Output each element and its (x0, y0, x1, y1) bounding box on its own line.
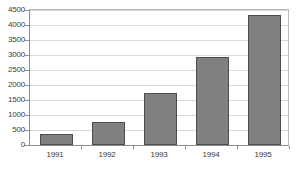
x-axis-tick-mark (289, 146, 290, 149)
gridline (30, 145, 288, 146)
gridline (30, 10, 288, 11)
bar (144, 93, 177, 145)
y-axis-ticks (0, 0, 29, 171)
x-axis-tick-label: 1995 (237, 150, 289, 159)
bar (40, 134, 73, 145)
bar (92, 122, 125, 145)
x-axis-tick-label: 1993 (133, 150, 185, 159)
x-axis-tick-label: 1994 (185, 150, 237, 159)
bar-chart-figure: 050010001500200025003000350040004500 199… (0, 0, 299, 171)
x-axis-tick-mark (81, 146, 82, 149)
x-axis-tick-label: 1992 (81, 150, 133, 159)
plot-area (29, 9, 289, 146)
x-axis-labels: 19911992199319941995 (29, 150, 289, 164)
x-axis-tick-label: 1991 (29, 150, 81, 159)
x-axis-tick-mark (133, 146, 134, 149)
bar (248, 15, 281, 146)
bar (196, 57, 229, 146)
x-axis-tick-mark (185, 146, 186, 149)
x-axis-tick-mark (237, 146, 238, 149)
